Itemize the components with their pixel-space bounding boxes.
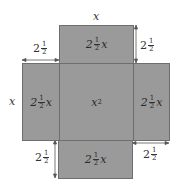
face-left-whole: 2 — [30, 96, 37, 109]
face-bottom-fraction: 12 — [93, 152, 99, 167]
box-net-diagram: 212x 212x x2 212x 212x x x 212 212 212 2… — [0, 0, 180, 185]
face-center: x2 — [59, 63, 134, 141]
den: 2 — [95, 45, 99, 52]
fraction: 12 — [41, 41, 47, 56]
face-left-var: x — [46, 96, 52, 109]
den: 2 — [152, 155, 156, 162]
face-right: 212x — [133, 63, 170, 141]
face-right-var: x — [156, 96, 162, 109]
face-center-exponent: 2 — [97, 98, 101, 106]
face-bottom-whole: 2 — [85, 153, 92, 166]
den: 2 — [150, 103, 154, 110]
face-right-whole: 2 — [141, 96, 148, 109]
dim-top-width: x — [93, 11, 99, 22]
face-right-fraction: 12 — [149, 95, 155, 110]
den: 2 — [94, 160, 98, 167]
dim-top-right: 212 — [140, 38, 155, 53]
face-top-whole: 2 — [86, 38, 93, 51]
den: 2 — [44, 158, 48, 165]
dim-left-height: x — [9, 96, 15, 107]
dim-bottom-left: 212 — [35, 150, 50, 165]
dim-top-left: 212 — [33, 41, 48, 56]
fraction: 12 — [148, 38, 154, 53]
whole: 2 — [140, 39, 147, 52]
whole: 2 — [143, 148, 150, 161]
den: 2 — [42, 49, 46, 56]
face-top: 212x — [59, 25, 134, 64]
dim-bottom-right: 212 — [143, 147, 158, 162]
face-top-fraction: 12 — [94, 37, 100, 52]
face-bottom: 212x — [58, 140, 133, 179]
den: 2 — [149, 46, 153, 53]
face-left-fraction: 12 — [38, 95, 44, 110]
whole: 2 — [35, 151, 42, 164]
whole: 2 — [33, 42, 40, 55]
fraction: 12 — [151, 147, 157, 162]
face-top-var: x — [101, 38, 107, 51]
den: 2 — [39, 103, 43, 110]
face-left: 212x — [22, 63, 60, 141]
face-bottom-var: x — [100, 153, 106, 166]
fraction: 12 — [43, 150, 49, 165]
